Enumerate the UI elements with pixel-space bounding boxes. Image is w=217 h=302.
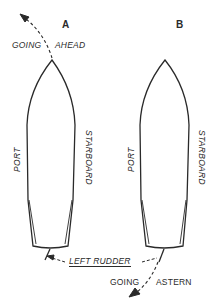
boat-a-rudder	[45, 249, 50, 260]
going-ahead-left-text: GOING	[12, 41, 41, 50]
going-astern-right-text: ASTERN	[156, 278, 192, 287]
boat-a-starboard-label: STARBOARD	[85, 130, 94, 185]
going-astern-left-text: GOING	[110, 278, 139, 287]
rudder-b-pointer-line	[142, 258, 157, 262]
rudder-diagram: A GOING AHEAD PORT STARBOARD B PORT STAR…	[0, 0, 217, 302]
boat-b-rudder	[159, 249, 164, 262]
left-rudder-label: LEFT RUDDER	[69, 257, 131, 267]
boat-b-starboard-label: STARBOARD	[198, 130, 207, 185]
boat-b-port-label: PORT	[127, 147, 136, 172]
boat-a-label: A	[62, 20, 69, 30]
boat-b-label: B	[176, 20, 183, 30]
going-ahead-arrow	[20, 14, 52, 58]
going-ahead-right-text: AHEAD	[55, 41, 85, 50]
rudder-a-pointer-arrow	[47, 255, 65, 262]
boat-a-port-label: PORT	[13, 147, 22, 172]
boat-b-hull	[140, 60, 189, 248]
boat-a-hull	[27, 60, 75, 248]
